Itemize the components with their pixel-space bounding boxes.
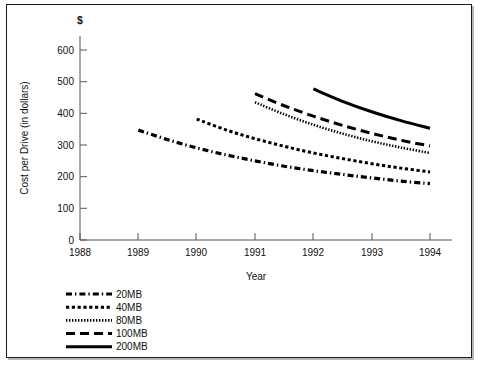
x-tick-label: 1990 xyxy=(185,247,208,258)
x-tick-label: 1988 xyxy=(69,247,92,258)
legend-label-40mb: 40MB xyxy=(116,302,142,313)
chart-figure: 0 100 200 300 400 500 600 1988 1989 1990… xyxy=(0,0,480,367)
y-axis-title: Cost per Drive (in dollars) xyxy=(19,81,30,194)
legend-label-200mb: 200MB xyxy=(116,341,148,352)
x-tick-label: 1989 xyxy=(127,247,150,258)
y-tick-label: 0 xyxy=(68,235,74,246)
x-axis-title: Year xyxy=(246,271,267,282)
y-tick-label: 100 xyxy=(57,203,74,214)
legend-label-100mb: 100MB xyxy=(116,328,148,339)
y-tick-label: 500 xyxy=(57,76,74,87)
series-line-20mb xyxy=(138,130,430,184)
x-tick-label: 1993 xyxy=(361,247,384,258)
y-tick-labels: 0 100 200 300 400 500 600 xyxy=(57,45,74,246)
y-tick-label: 400 xyxy=(57,108,74,119)
x-tick-label: 1992 xyxy=(302,247,325,258)
legend-label-20mb: 20MB xyxy=(116,289,142,300)
x-tick-marks xyxy=(80,233,430,240)
y-tick-label: 300 xyxy=(57,140,74,151)
chart-canvas: 0 100 200 300 400 500 600 1988 1989 1990… xyxy=(0,0,480,367)
series-group xyxy=(138,89,430,184)
series-line-200mb xyxy=(313,89,430,128)
x-tick-labels: 1988 1989 1990 1991 1992 1993 1994 xyxy=(69,247,442,258)
y-tick-marks xyxy=(80,50,87,240)
x-tick-label: 1991 xyxy=(244,247,267,258)
legend-label-80mb: 80MB xyxy=(116,315,142,326)
series-line-40mb xyxy=(197,119,430,172)
y-tick-label: 600 xyxy=(57,45,74,56)
y-axis-unit-symbol: $ xyxy=(77,14,83,26)
chart-legend: 20MB40MB80MB100MB200MB xyxy=(66,289,148,353)
x-tick-label: 1994 xyxy=(419,247,442,258)
y-tick-label: 200 xyxy=(57,171,74,182)
